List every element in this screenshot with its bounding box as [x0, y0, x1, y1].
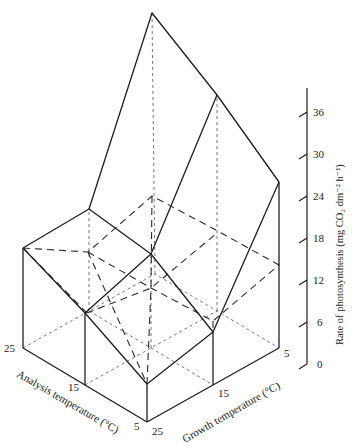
photosynthesis-3d-chart: 0 6 12 18 24 30 36 Rate of photosynthesi…: [0, 0, 355, 448]
analysis-tick-5: 5: [134, 420, 140, 432]
rate-axis: 0 6 12 18 24 30 36 Rate of photosynthesi…: [299, 88, 346, 370]
analysis-axis: 25 15 5 Analysis temperature (°C): [4, 342, 140, 437]
floor-guides: [23, 13, 279, 385]
growth-axis: 25 15 5 Growth temperature (°C): [152, 347, 290, 446]
analysis-tick-15: 15: [68, 381, 80, 393]
z-tick-36: 36: [313, 106, 325, 118]
dashed-surface: [23, 196, 279, 384]
z-tick-12: 12: [313, 274, 324, 286]
z-tick-18: 18: [313, 232, 325, 244]
analysis-axis-title: Analysis temperature (°C): [15, 367, 122, 436]
z-tick-24: 24: [313, 190, 325, 202]
growth-tick-15: 15: [218, 387, 230, 399]
chart-svg: 0 6 12 18 24 30 36 Rate of photosynthesi…: [0, 0, 355, 448]
analysis-tick-25: 25: [4, 342, 16, 354]
z-tick-6: 6: [317, 316, 323, 328]
growth-tick-25: 25: [152, 425, 164, 437]
z-axis-title: Rate of photosynthesis (mg CO₂ dm⁻² h⁻¹): [334, 164, 346, 345]
growth-tick-5: 5: [284, 347, 290, 359]
z-tick-0: 0: [317, 358, 323, 370]
solid-surface: [23, 13, 279, 422]
z-tick-30: 30: [313, 148, 325, 160]
growth-axis-title: Growth temperature (°C): [180, 379, 283, 446]
